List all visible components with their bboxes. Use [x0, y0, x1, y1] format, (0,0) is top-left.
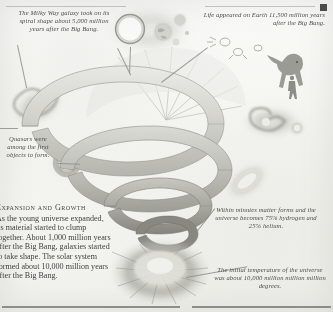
square-mark	[320, 4, 327, 11]
matter-forms-caption: Within minutes matter forms and the univ…	[212, 206, 320, 231]
header-rule-left	[6, 6, 126, 7]
quasars-caption: Quasars were among the first objects to …	[2, 135, 54, 160]
initial-temperature-caption: The initial temperature of the universe …	[214, 266, 326, 291]
expansion-and-growth-heading: Expansion and Growth	[0, 203, 112, 213]
spiral-galaxy-right-illustration	[240, 105, 306, 139]
expansion-and-growth-body: As the young universe expanded, its mate…	[0, 214, 112, 281]
dinosaur-illustration	[267, 54, 303, 88]
big-bang-burst-illustration	[108, 238, 212, 306]
leader-line-left-edge	[0, 128, 18, 129]
microbe-illustration	[207, 37, 262, 59]
footer-rule-left	[2, 306, 180, 308]
life-on-earth-caption: Life appeared on Earth 11,500 million ye…	[198, 11, 325, 27]
human-figure-illustration	[288, 76, 297, 99]
expansion-and-growth-block: Expansion and Growth As the young univer…	[0, 203, 112, 281]
milky-way-caption: The Milky Way galaxy took on its spiral …	[12, 9, 116, 34]
illustration-page: The Milky Way galaxy took on its spiral …	[0, 0, 333, 312]
header-rule-right	[205, 6, 315, 7]
footer-rule-right	[192, 306, 331, 308]
